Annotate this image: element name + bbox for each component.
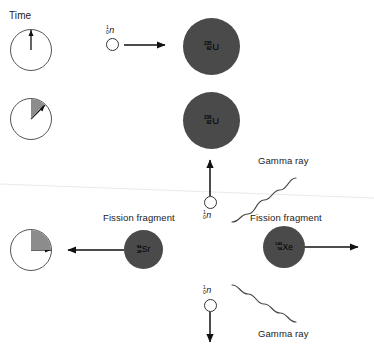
time-axis-label: Time: [9, 10, 31, 21]
emitted-neutron-down-label: 1 0 n: [203, 285, 211, 296]
emitted-neutron-down-symbol: n: [206, 285, 211, 295]
emitted-neutron-up-label: 1 0 n: [203, 210, 211, 221]
xenon-140-nucleus: 140 54 Xe: [263, 226, 305, 268]
strontium-94-nucleus: 94 38 Sr: [124, 230, 163, 269]
uranium-235-label: 235 92 U: [204, 42, 219, 52]
gamma-ray-bottom-label: Gamma ray: [258, 328, 309, 339]
emitted-neutron-down: [204, 299, 217, 312]
uranium-236-label: 236 92 U: [204, 116, 219, 126]
fission-fragment-right-label: Fission fragment: [250, 212, 322, 223]
incident-neutron: [106, 38, 119, 51]
uranium-235-numbers: 235 92: [204, 42, 212, 52]
strontium-94-label: 94 38 Sr: [137, 245, 151, 254]
incident-neutron-label: 1 0 n: [106, 25, 114, 36]
gamma-ray-top-label: Gamma ray: [258, 155, 309, 166]
incident-neutron-symbol: n: [109, 25, 114, 35]
clock-face-3: [11, 230, 51, 270]
xenon-140-label: 140 54 Xe: [275, 242, 293, 251]
clock-stage-3: [10, 229, 52, 271]
emitted-neutron-up-symbol: n: [206, 210, 211, 220]
clock-face-2: [11, 99, 51, 139]
fission-diagram: Time 1 0 n 235 92 U: [0, 0, 374, 350]
xenon-140-numbers: 140 54: [275, 242, 282, 251]
emitted-neutron-up: [204, 196, 217, 209]
fission-fragment-left-label: Fission fragment: [103, 212, 175, 223]
uranium-236-nucleus: 236 92 U: [183, 92, 240, 149]
uranium-236-numbers: 236 92: [204, 116, 212, 126]
clock-stage-1: [10, 29, 52, 71]
clock-face-1: [11, 30, 51, 70]
clock-stage-2: [10, 98, 52, 140]
strontium-94-numbers: 94 38: [137, 245, 142, 254]
uranium-235-nucleus: 235 92 U: [183, 18, 240, 75]
